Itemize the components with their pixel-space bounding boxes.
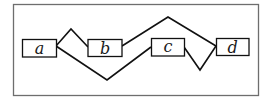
node-d: d [217, 38, 250, 57]
node-b: b [88, 39, 122, 58]
node-c: c [152, 37, 185, 56]
node-b-label: b [100, 39, 110, 58]
node-a: a [23, 39, 57, 58]
node-d-label: d [227, 38, 237, 57]
edge-a-b [56, 29, 88, 47]
node-c-label: c [164, 37, 173, 56]
diagram-canvas: a b c d [0, 0, 266, 100]
node-a-label: a [35, 39, 45, 58]
edges [56, 17, 216, 80]
edge-c-d [184, 46, 216, 70]
